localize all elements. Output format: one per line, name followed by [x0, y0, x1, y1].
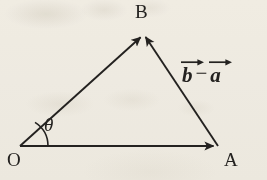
vector-triangle-figure: O A B θ b − a	[0, 0, 267, 180]
vertex-label-o: O	[7, 150, 21, 169]
vector-ob-line	[20, 37, 141, 146]
vertex-label-b: B	[135, 2, 148, 21]
vector-arrow-over-a	[209, 59, 232, 67]
angle-label-theta: θ	[44, 115, 53, 134]
vertex-label-a: A	[224, 150, 238, 169]
vector-term-b: b	[182, 56, 193, 86]
vector-arrow-over-b	[181, 59, 204, 67]
vector-ab-line	[146, 37, 218, 146]
vector-letter-a: a	[210, 65, 221, 86]
vector-expression-label: b − a	[182, 56, 221, 86]
vector-term-a: a	[210, 56, 221, 86]
vector-letter-b: b	[182, 65, 193, 86]
